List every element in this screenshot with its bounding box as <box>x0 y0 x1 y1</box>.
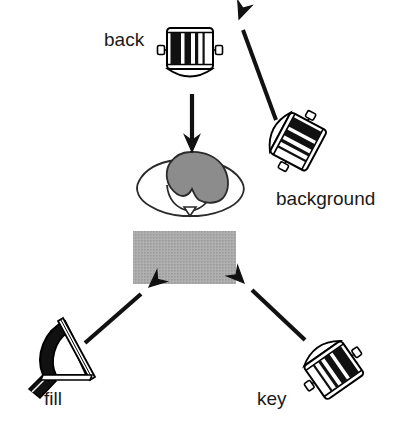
light-fixture-background[interactable] <box>258 100 331 180</box>
label-key: key <box>257 388 287 409</box>
light-fixture-back[interactable] <box>158 28 223 77</box>
light-fixture-fill[interactable] <box>29 318 95 398</box>
arrow-fill-to-table <box>85 270 167 343</box>
label-back: back <box>104 29 145 50</box>
arrow-key-to-table <box>227 266 305 340</box>
subject-person <box>137 152 244 216</box>
label-background: background <box>276 188 375 209</box>
table-surface <box>133 231 236 284</box>
arrow-back-to-subject <box>185 94 200 152</box>
diagram-canvas: back background fill key <box>0 0 410 443</box>
label-fill: fill <box>44 388 62 409</box>
lighting-diagram: back background fill key <box>0 0 410 443</box>
arrow-background-to-backdrop <box>232 0 276 120</box>
